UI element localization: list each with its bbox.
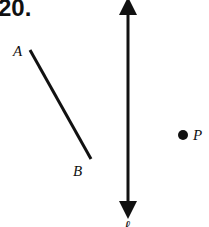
label-b: B — [73, 163, 82, 179]
label-line-l: ℓ — [124, 218, 130, 227]
segment-ab — [30, 50, 91, 159]
geometry-figure: A B P ℓ — [0, 0, 209, 227]
point-p-dot — [178, 130, 188, 140]
label-a: A — [12, 43, 23, 59]
label-p: P — [192, 127, 202, 143]
